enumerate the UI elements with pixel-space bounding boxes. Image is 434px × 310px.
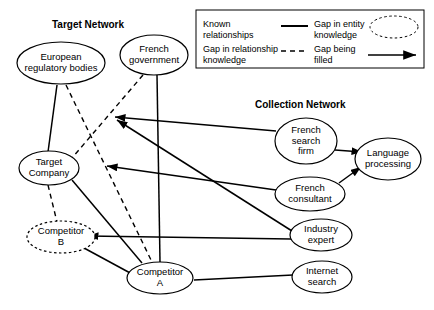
- node-internet-search: [292, 261, 352, 293]
- node-european-regulatory-bodies: [17, 42, 105, 84]
- legend-label-gap-being-filled: Gap being filled: [314, 44, 372, 65]
- node-industry-expert: [290, 219, 352, 251]
- legend-label-known-relationships: Known relationships: [203, 19, 277, 40]
- node-french-search-firm: [275, 118, 337, 164]
- node-french-consultant: [275, 177, 345, 211]
- edge-erb-target-company: [48, 85, 57, 152]
- edge-french-government-competitor-a: [157, 75, 160, 262]
- legend-label-gap-in-relationship-knowledge: Gap in relationship knowledge: [203, 44, 283, 65]
- node-french-government: [120, 35, 188, 75]
- diagram-page: Target Network Collection Network Known …: [0, 0, 434, 310]
- node-language-processing: [355, 138, 421, 180]
- edge-french-consultant-language-processing: [339, 167, 361, 183]
- edge-competitor-b-competitor-a: [84, 248, 132, 274]
- edge-target-company-competitor-a: [72, 180, 142, 263]
- title-target-network: Target Network: [52, 19, 124, 30]
- title-collection-network: Collection Network: [255, 99, 346, 110]
- edge-internet-search-to-competitor-a: [194, 275, 293, 280]
- edge-french-search-firm-to-target: [115, 117, 276, 131]
- node-competitor-a: [127, 262, 193, 294]
- edge-industry-expert-to-target: [117, 120, 292, 231]
- edge-french-consultant-to-target-company: [107, 166, 276, 190]
- edge-target-company-competitor-b: [48, 185, 57, 222]
- node-target-company: [19, 151, 79, 185]
- legend-label-gap-in-entity-knowledge: Gap in entity knowledge: [314, 19, 374, 40]
- edge-industry-expert-to-competitor-b: [88, 236, 291, 239]
- edge-french-government-target-company: [72, 75, 143, 158]
- legend-gap-entity-ellipse: [370, 16, 418, 38]
- node-competitor-b: [27, 221, 95, 253]
